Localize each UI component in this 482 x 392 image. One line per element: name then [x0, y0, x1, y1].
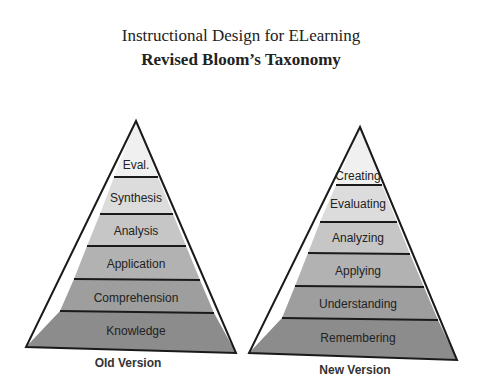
new-layer-label: Evaluating	[330, 197, 386, 211]
new-layer-label: Understanding	[319, 297, 397, 311]
old-layer-label: Analysis	[114, 224, 159, 238]
new-layer-label: Remembering	[320, 331, 395, 345]
old-version-pyramid: Eval. Synthesis Analysis Application Com…	[26, 121, 236, 370]
old-layer-label: Synthesis	[110, 191, 162, 205]
pyramids-diagram: Eval. Synthesis Analysis Application Com…	[0, 0, 482, 392]
new-layer-label: Creating	[335, 169, 380, 183]
old-layer-label: Eval.	[123, 158, 150, 172]
new-version-caption: New Version	[319, 363, 390, 377]
new-version-pyramid: Creating Evaluating Analyzing Applying U…	[249, 127, 457, 377]
old-layer-label: Knowledge	[106, 324, 166, 338]
old-layer-label: Application	[107, 257, 166, 271]
old-layer-label: Comprehension	[94, 291, 179, 305]
new-layer-label: Analyzing	[332, 231, 384, 245]
new-layer-label: Applying	[335, 264, 381, 278]
old-version-caption: Old Version	[95, 356, 162, 370]
